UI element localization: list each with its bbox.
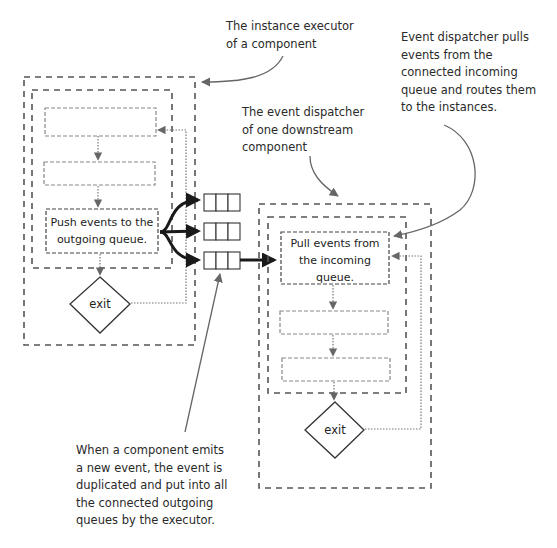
executor-step-1: [45, 108, 156, 136]
executor-note: The instance executor of a component: [226, 18, 354, 53]
pull-note-arrow: [394, 125, 475, 236]
duplicate-note: When a component emits a new event, the …: [76, 442, 227, 530]
executor-exit-label: exit: [76, 296, 124, 313]
executor-step-2: [44, 162, 155, 185]
pull-note: Event dispatcher pulls events from the c…: [401, 29, 536, 117]
executor-note-arrow: [202, 56, 283, 82]
dispatcher-note: The event dispatcher of one downstream c…: [242, 104, 364, 157]
queue-3: [204, 252, 240, 269]
dispatcher-note-arrow: [310, 156, 338, 196]
executor-step-3-label: Push events to the outgoing queue.: [46, 214, 158, 248]
queue-2: [204, 223, 240, 240]
dispatcher-step-1-label: Pull events from the incoming queue.: [281, 235, 389, 286]
dispatcher-exit-label: exit: [311, 422, 359, 439]
queue-1: [204, 194, 240, 211]
dispatcher-step-2: [280, 311, 388, 334]
duplicate-note-arrow: [185, 274, 220, 432]
dispatcher-step-3: [282, 358, 390, 381]
